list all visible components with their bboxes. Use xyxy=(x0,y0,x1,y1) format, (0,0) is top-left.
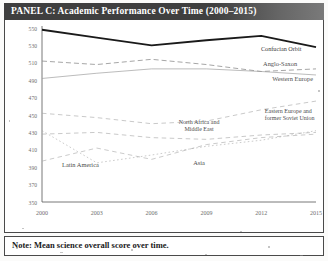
y-axis-tick-label: 430 xyxy=(29,130,38,136)
y-axis-tick-label: 510 xyxy=(29,60,38,66)
y-axis-tick-label: 530 xyxy=(29,43,38,49)
series-line xyxy=(42,132,316,139)
x-axis-tick-label: 2012 xyxy=(255,210,267,216)
x-axis-tick-label: 2006 xyxy=(146,210,158,216)
series-label: North Africa and xyxy=(179,119,220,125)
y-axis-tick-label: 490 xyxy=(29,78,38,84)
y-axis-tick-label: 550 xyxy=(29,26,38,32)
y-axis-tick-label: 370 xyxy=(29,182,38,188)
y-axis-tick-label: 390 xyxy=(29,165,38,171)
series-label: former Soviet Union xyxy=(265,115,315,121)
panel-c-figure: PANEL C: Academic Performance Over Time … xyxy=(0,0,328,261)
series-label: Anglo-Saxon xyxy=(263,60,298,67)
figure-note: Note: Mean science overall score over ti… xyxy=(12,240,169,250)
series-label: Asia xyxy=(193,159,205,166)
series-label: Western Europe xyxy=(272,75,313,82)
x-axis-tick-label: 2015 xyxy=(310,210,322,216)
y-axis-tick-label: 470 xyxy=(29,95,38,101)
figure-note-box: Note: Mean science overall score over ti… xyxy=(4,236,324,256)
chart-plot-area: 3503703904104304504704905105305502000200… xyxy=(4,20,324,233)
page-title: PANEL C: Academic Performance Over Time … xyxy=(11,4,256,19)
series-label: Latin America xyxy=(62,161,99,168)
series-label: Eastern Europe and xyxy=(265,108,312,114)
line-chart: 3503703904104304504704905105305502000200… xyxy=(4,20,324,233)
x-axis-tick-label: 2000 xyxy=(36,210,48,216)
panel-title-bar: PANEL C: Academic Performance Over Time … xyxy=(4,3,324,20)
series-label: Confucian Orbit xyxy=(261,45,302,52)
y-axis-tick-label: 450 xyxy=(29,113,38,119)
x-axis-tick-label: 2009 xyxy=(200,210,212,216)
y-axis-tick-label: 410 xyxy=(29,147,38,153)
x-axis-tick-label: 2003 xyxy=(91,210,103,216)
series-line xyxy=(42,131,316,163)
series-label: Middle East xyxy=(185,126,214,132)
y-axis-tick-label: 350 xyxy=(29,200,38,206)
